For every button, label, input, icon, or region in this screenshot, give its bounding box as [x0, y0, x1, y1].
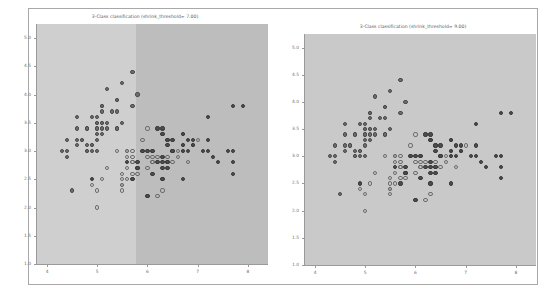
data-point	[130, 155, 134, 159]
left-x-axis	[36, 264, 268, 265]
data-point	[413, 154, 417, 158]
data-point	[499, 176, 503, 180]
data-point	[413, 171, 417, 175]
data-point	[449, 181, 453, 185]
data-point	[85, 126, 89, 130]
data-point	[135, 166, 139, 170]
data-point	[398, 160, 402, 164]
data-point	[438, 165, 442, 169]
y-tick-label: 4.0	[11, 92, 31, 97]
x-tick-mark	[97, 264, 98, 267]
data-point	[418, 154, 422, 158]
data-point	[135, 92, 139, 96]
data-point	[206, 149, 210, 153]
data-point	[160, 126, 164, 130]
x-tick-mark	[248, 264, 249, 267]
left-plot-area	[37, 24, 268, 264]
data-point	[428, 160, 432, 164]
data-point	[499, 111, 503, 115]
data-point	[343, 122, 347, 126]
data-point	[100, 109, 104, 113]
decision-region-single	[305, 34, 536, 265]
data-point	[428, 181, 432, 185]
x-tick-mark	[47, 264, 48, 267]
data-point	[150, 149, 154, 153]
right-panel-title: 3-Class classification (shrink_threshold…	[298, 24, 528, 29]
data-point	[449, 138, 453, 142]
y-tick-mark	[34, 123, 37, 124]
left-panel-title: 3-Class classification (shrink_threshold…	[30, 14, 260, 19]
data-point	[428, 138, 432, 142]
y-tick-label: 3.0	[279, 153, 299, 158]
data-point	[160, 166, 164, 170]
data-point	[140, 149, 144, 153]
data-point	[191, 138, 195, 142]
y-tick-mark	[302, 265, 305, 266]
data-point	[160, 177, 164, 181]
y-tick-label: 3.5	[279, 126, 299, 131]
data-point	[398, 165, 402, 169]
data-point	[413, 198, 417, 202]
data-point	[231, 149, 235, 153]
y-tick-label: 4.5	[11, 63, 31, 68]
data-point	[65, 138, 69, 142]
y-tick-mark	[34, 38, 37, 39]
data-point	[358, 181, 362, 185]
data-point	[186, 138, 190, 142]
x-tick-label: 5	[355, 270, 375, 275]
data-point	[474, 143, 478, 147]
data-point	[145, 194, 149, 198]
y-tick-mark	[302, 75, 305, 76]
matplotlib-figure: 3-Class classification (shrink_threshold…	[0, 0, 553, 296]
data-point	[474, 122, 478, 126]
y-tick-label: 4.0	[279, 99, 299, 104]
y-tick-mark	[34, 151, 37, 152]
data-point	[343, 143, 347, 147]
data-point	[418, 176, 422, 180]
data-point	[145, 149, 149, 153]
data-point	[150, 155, 154, 159]
data-point	[140, 138, 144, 142]
data-point	[145, 155, 149, 159]
y-tick-label: 4.5	[279, 72, 299, 77]
data-point	[150, 172, 154, 176]
data-point	[433, 149, 437, 153]
data-point	[398, 111, 402, 115]
data-point	[353, 132, 357, 136]
decision-region-right	[136, 24, 268, 264]
y-tick-label: 3.5	[11, 120, 31, 125]
left-subplot: 3-Class classification (shrink_threshold…	[0, 0, 285, 296]
data-point	[449, 149, 453, 153]
data-point	[454, 165, 458, 169]
data-point	[95, 205, 99, 209]
y-tick-label: 1.0	[279, 262, 299, 267]
data-point	[363, 143, 367, 147]
data-point	[363, 132, 367, 136]
data-point	[479, 160, 483, 164]
data-point	[413, 132, 417, 136]
data-point	[241, 104, 245, 108]
data-point	[413, 160, 417, 164]
data-point	[403, 165, 407, 169]
data-point	[509, 111, 513, 115]
data-point	[170, 138, 174, 142]
y-tick-mark	[34, 208, 37, 209]
y-tick-mark	[34, 95, 37, 96]
data-point	[398, 78, 402, 82]
y-tick-mark	[34, 66, 37, 67]
data-point	[130, 149, 134, 153]
y-tick-mark	[34, 236, 37, 237]
data-point	[165, 166, 169, 170]
y-tick-mark	[302, 183, 305, 184]
data-point	[145, 126, 149, 130]
y-tick-mark	[302, 156, 305, 157]
y-tick-label: 1.5	[11, 233, 31, 238]
data-point	[135, 160, 139, 164]
y-tick-mark	[302, 238, 305, 239]
data-point	[444, 160, 448, 164]
x-tick-label: 8	[506, 270, 526, 275]
right-x-axis	[304, 265, 536, 266]
x-tick-label: 6	[405, 270, 425, 275]
data-point	[181, 149, 185, 153]
data-point	[206, 115, 210, 119]
